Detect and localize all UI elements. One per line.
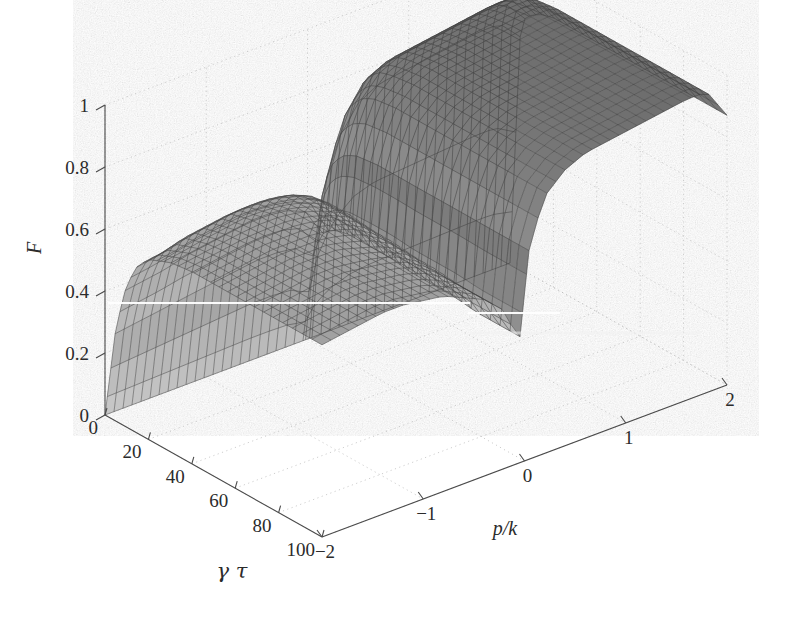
z-tick-label: 0.2	[65, 343, 89, 364]
z-tick-label: 0.8	[65, 157, 89, 178]
z-axis-title: F	[23, 241, 45, 255]
z-tick-label: 1	[80, 95, 90, 116]
x-tick-label: −1	[416, 503, 436, 524]
y-tick-label: 0	[89, 417, 99, 438]
z-tick-label: 0.4	[65, 281, 89, 302]
x-axis-title: p/k	[491, 517, 519, 540]
surface-plot-figure: 00.20.40.60.81020406080100−2−1012Fγ τp/k	[0, 0, 788, 622]
y-tick-label: 100	[287, 539, 316, 560]
y-tick-label: 40	[166, 466, 185, 487]
y-tick-label: 20	[122, 441, 141, 462]
surface-plot-canvas: 00.20.40.60.81020406080100−2−1012Fγ τp/k	[0, 0, 788, 622]
x-tick-label: 1	[624, 427, 634, 448]
x-tick-label: −2	[315, 541, 335, 562]
y-tick-label: 60	[209, 490, 228, 511]
x-tick-label: 2	[725, 389, 735, 410]
x-tick-label: 0	[523, 465, 533, 486]
z-tick-label: 0.6	[65, 219, 89, 240]
y-axis-title: γ τ	[217, 559, 248, 583]
y-tick-label: 80	[253, 515, 272, 536]
